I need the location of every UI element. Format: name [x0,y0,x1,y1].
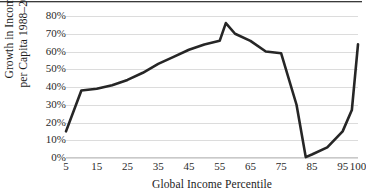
y-tick-label: 40% [20,81,66,92]
x-tick-label: 95 [337,160,348,172]
x-tick-label: 5 [63,160,69,172]
x-tick-label: 35 [153,160,164,172]
x-tick-label: 25 [122,160,133,172]
x-axis-title: Global Income Percentile [66,178,358,191]
x-axis-tick-labels: 5152535455565758595100 [66,160,358,176]
x-tick-label: 45 [183,160,194,172]
x-tick-label: 100 [350,160,366,172]
plot-area [66,16,358,158]
y-tick-label: 80% [20,10,66,21]
y-tick-label: 10% [20,134,66,145]
x-tick-label: 75 [276,160,287,172]
y-axis-tick-labels: 0%10%20%30%40%50%60%70%80% [18,0,66,196]
line-series-elephant-curve [66,16,358,158]
y-tick-label: 60% [20,46,66,57]
series-polyline [66,23,358,157]
y-tick-label: 20% [20,117,66,128]
gridline [66,158,358,159]
x-tick-label: 65 [245,160,256,172]
y-tick-label: 50% [20,63,66,74]
y-axis-title-line1: Growth in Income [3,0,15,78]
y-tick-label: 70% [20,28,66,39]
x-tick-label: 55 [214,160,225,172]
x-tick-label: 15 [91,160,102,172]
y-tick-label: 30% [20,99,66,110]
y-tick-label: 0% [20,152,66,163]
x-tick-label: 85 [306,160,317,172]
